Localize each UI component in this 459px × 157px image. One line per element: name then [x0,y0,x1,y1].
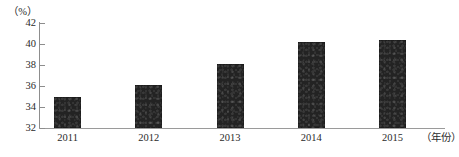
x-axis-line [39,128,445,129]
bar [379,40,406,128]
y-axis-tick [40,86,45,87]
x-axis-labels: （年份） 20112012201320142015 [39,131,452,151]
bar [217,64,244,128]
y-axis-tick-label: 32 [6,123,36,134]
y-axis-tick [40,107,45,108]
bar [135,85,162,128]
y-axis-tick [40,65,45,66]
y-axis-labels: 323436384042 [0,0,36,157]
x-axis-tick-label: 2014 [281,131,341,146]
y-axis-tick-label: 34 [6,102,36,113]
bars-layer [39,23,445,128]
x-axis-tick-label: 2013 [200,131,260,146]
y-axis-tick-label: 42 [6,18,36,29]
bar [298,42,325,128]
y-axis-tick-label: 36 [6,81,36,92]
bar [54,97,81,129]
x-axis-unit-label: （年份） [421,131,459,146]
y-axis-tick-label: 38 [6,60,36,71]
y-axis-tick-label: 40 [6,39,36,50]
y-axis-tick [40,23,45,24]
y-axis-tick [40,44,45,45]
x-axis-tick-label: 2012 [119,131,179,146]
x-axis-tick-label: 2015 [362,131,422,146]
y-axis-tick [40,128,45,129]
x-axis-tick-label: 2011 [38,131,98,146]
